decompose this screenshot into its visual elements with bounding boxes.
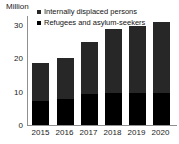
bar-segment-internally-displaced-persons[interactable] [153, 22, 170, 93]
bar-group-2016[interactable] [57, 58, 74, 125]
y-axis-tick-label: 20 [14, 54, 23, 63]
stacked-bar-chart: Million Internally displaced persons Ref… [0, 0, 179, 144]
bar-segment-refugees-and-asylum-seekers[interactable] [129, 93, 146, 125]
bar-segment-internally-displaced-persons[interactable] [81, 42, 98, 94]
y-axis-tick-label: 0 [19, 121, 23, 130]
bar-segment-refugees-and-asylum-seekers[interactable] [81, 94, 98, 125]
bar-segment-refugees-and-asylum-seekers[interactable] [105, 93, 122, 125]
bars-container [28, 14, 178, 125]
bar-segment-internally-displaced-persons[interactable] [129, 26, 146, 93]
bar-segment-refugees-and-asylum-seekers[interactable] [153, 93, 170, 125]
x-axis-tick-label: 2020 [149, 128, 173, 138]
bar-group-2019[interactable] [129, 26, 146, 125]
bar-segment-refugees-and-asylum-seekers[interactable] [32, 101, 49, 125]
x-axis-labels: 2015 2016 2017 2018 2019 2020 [28, 128, 178, 142]
x-axis-line [27, 125, 177, 126]
x-axis-tick-label: 2016 [53, 128, 77, 138]
bar-group-2020[interactable] [153, 22, 170, 125]
y-axis-tick-label: 30 [14, 21, 23, 30]
bar-segment-internally-displaced-persons[interactable] [32, 63, 49, 101]
x-axis-tick-label: 2018 [101, 128, 125, 138]
y-axis-tick-label: 10 [14, 88, 23, 97]
y-axis-ticks: 30 20 10 0 [0, 14, 26, 126]
x-axis-tick-label: 2015 [29, 128, 53, 138]
bar-segment-internally-displaced-persons[interactable] [105, 29, 122, 93]
x-axis-tick-label: 2017 [77, 128, 101, 138]
bar-group-2018[interactable] [105, 29, 122, 125]
y-axis-title: Million [6, 2, 29, 12]
bar-group-2017[interactable] [81, 42, 98, 125]
bar-group-2015[interactable] [32, 63, 49, 125]
bar-segment-refugees-and-asylum-seekers[interactable] [57, 99, 74, 125]
square-marker-icon [37, 10, 41, 14]
bar-segment-internally-displaced-persons[interactable] [57, 58, 74, 99]
x-axis-tick-label: 2019 [125, 128, 149, 138]
